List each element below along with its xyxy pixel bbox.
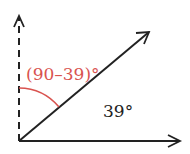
diagonal-ray <box>19 32 149 141</box>
complement-angle-arc <box>19 88 59 107</box>
vertical-arrowhead-icon <box>14 16 24 27</box>
given-angle-label: 39° <box>103 101 133 121</box>
complement-angle-label: (90–39)° <box>26 64 100 84</box>
angle-diagram: (90–39)° 39° <box>0 0 190 154</box>
